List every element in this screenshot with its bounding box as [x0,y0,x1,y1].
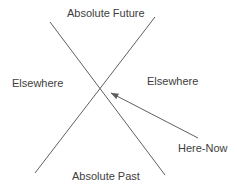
light-cone-line-bottom-left-to-top-right [35,17,155,173]
light-cone-diagram: Absolute Future Elsewhere Elsewhere Here… [0,0,237,192]
light-cone-line-left-top-to-bottom-right [50,22,165,175]
label-absolute-past: Absolute Past [72,171,140,182]
label-elsewhere-right: Elsewhere [147,76,198,87]
label-absolute-future: Absolute Future [67,8,145,19]
label-here-now: Here-Now [178,143,228,154]
diagram-canvas [0,0,237,192]
label-elsewhere-left: Elsewhere [12,78,63,89]
here-now-arrow [111,93,198,138]
